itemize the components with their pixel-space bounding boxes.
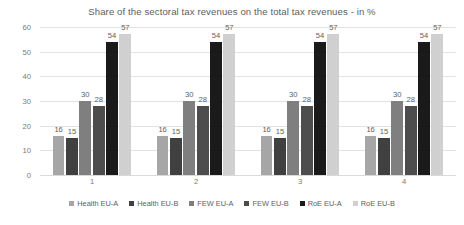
bar-value-label: 30: [185, 90, 193, 99]
x-axis-tick-label: 4: [402, 177, 406, 186]
bar-value-label: 15: [276, 127, 284, 136]
y-axis-tick-label: 0: [27, 171, 31, 180]
x-axis: 1234: [40, 177, 456, 191]
y-axis-tick-label: 50: [23, 47, 31, 56]
bar-value-label: 15: [380, 127, 388, 136]
bar: [197, 106, 209, 175]
bar-value-label: 15: [68, 127, 76, 136]
bar: [106, 42, 118, 175]
bar-value-label: 30: [393, 90, 401, 99]
bar: [327, 34, 339, 175]
bar-value-label: 28: [406, 95, 414, 104]
bar: [79, 101, 91, 175]
y-axis-tick-label: 20: [23, 121, 31, 130]
bar-value-label: 16: [158, 125, 166, 134]
bar: [223, 34, 235, 175]
y-axis-tick-label: 10: [23, 146, 31, 155]
gridline: [40, 175, 456, 176]
bar-chart: Share of the sectoral tax revenues on th…: [0, 0, 464, 225]
y-axis-tick-label: 30: [23, 97, 31, 106]
gridline: [40, 27, 456, 28]
bar-value-label: 28: [198, 95, 206, 104]
bar: [66, 138, 78, 175]
plot-area: 1615302854571615302854571615302854571615…: [40, 27, 456, 175]
y-axis-tick-label: 40: [23, 72, 31, 81]
legend-label: Health EU-B: [137, 199, 178, 208]
legend-item[interactable]: FEW EU-A: [189, 199, 233, 208]
bar: [210, 42, 222, 175]
bar-value-label: 16: [262, 125, 270, 134]
bar: [93, 106, 105, 175]
legend-label: RoE EU-B: [361, 199, 395, 208]
bar-value-label: 28: [94, 95, 102, 104]
legend-item[interactable]: RoE EU-B: [353, 199, 395, 208]
bar-value-label: 57: [433, 23, 441, 32]
chart-legend: Health EU-AHealth EU-BFEW EU-AFEW EU-BRo…: [0, 199, 464, 208]
legend-swatch-icon: [300, 201, 305, 206]
bar: [274, 138, 286, 175]
legend-item[interactable]: RoE EU-A: [300, 199, 342, 208]
legend-swatch-icon: [189, 201, 194, 206]
chart-title: Share of the sectoral tax revenues on th…: [0, 6, 464, 17]
legend-label: RoE EU-A: [308, 199, 342, 208]
bar: [53, 136, 65, 175]
bar: [314, 42, 326, 175]
bar: [378, 138, 390, 175]
y-axis: 0102030405060: [0, 27, 36, 175]
x-axis-tick-label: 1: [90, 177, 94, 186]
bar: [170, 138, 182, 175]
bar: [365, 136, 377, 175]
gridline: [40, 52, 456, 53]
legend-label: Health EU-A: [77, 199, 118, 208]
legend-label: FEW EU-A: [197, 199, 233, 208]
x-axis-tick-label: 3: [298, 177, 302, 186]
bar: [405, 106, 417, 175]
bar-value-label: 30: [81, 90, 89, 99]
bar: [287, 101, 299, 175]
bar-value-label: 54: [108, 31, 116, 40]
legend-swatch-icon: [353, 201, 358, 206]
bar-value-label: 28: [302, 95, 310, 104]
gridline: [40, 76, 456, 77]
bar-value-label: 30: [289, 90, 297, 99]
bar-value-label: 54: [212, 31, 220, 40]
bar: [119, 34, 131, 175]
legend-swatch-icon: [244, 201, 249, 206]
bar: [418, 42, 430, 175]
legend-item[interactable]: Health EU-B: [129, 199, 178, 208]
legend-swatch-icon: [129, 201, 134, 206]
legend-item[interactable]: FEW EU-B: [244, 199, 288, 208]
bar: [261, 136, 273, 175]
x-axis-tick-label: 2: [194, 177, 198, 186]
bar-value-label: 54: [316, 31, 324, 40]
bar-value-label: 54: [420, 31, 428, 40]
bar-value-label: 16: [54, 125, 62, 134]
bar-value-label: 57: [121, 23, 129, 32]
bar: [301, 106, 313, 175]
legend-item[interactable]: Health EU-A: [69, 199, 118, 208]
bar-value-label: 15: [172, 127, 180, 136]
bar: [431, 34, 443, 175]
bar-value-label: 57: [225, 23, 233, 32]
legend-label: FEW EU-B: [252, 199, 288, 208]
y-axis-tick-label: 60: [23, 23, 31, 32]
bar: [183, 101, 195, 175]
legend-swatch-icon: [69, 201, 74, 206]
bar: [391, 101, 403, 175]
bar-value-label: 57: [329, 23, 337, 32]
bar: [157, 136, 169, 175]
bar-value-label: 16: [366, 125, 374, 134]
